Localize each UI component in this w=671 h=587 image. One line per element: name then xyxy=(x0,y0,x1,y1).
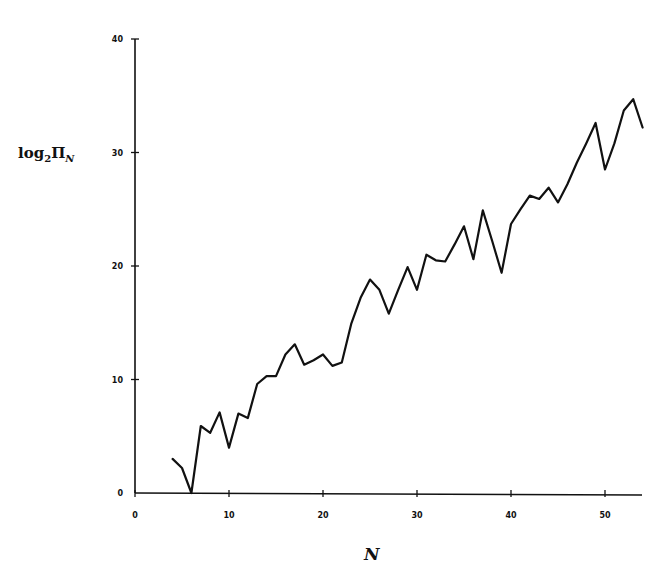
x-tick-label: 50 xyxy=(599,511,611,520)
y-tick-label: 30 xyxy=(112,149,124,158)
x-axis-line xyxy=(135,493,642,495)
x-tick-label: 0 xyxy=(132,511,138,520)
x-axis-label: N xyxy=(364,544,380,564)
y-axis-label-base: log xyxy=(18,144,44,162)
y-axis-label-symbol: Π xyxy=(51,144,65,162)
line-chart: 01020304050 010203040 xyxy=(0,0,671,587)
x-tick-label: 10 xyxy=(223,511,235,520)
y-tick-label: 40 xyxy=(112,35,124,44)
x-tick-label: 20 xyxy=(317,511,329,520)
x-tick-label: 30 xyxy=(411,511,423,520)
y-axis-label-sub2: N xyxy=(65,153,74,164)
axes xyxy=(135,39,642,495)
x-tick-label: 40 xyxy=(505,511,517,520)
y-axis-label: log2ΠN xyxy=(18,144,74,164)
y-tick-label: 0 xyxy=(117,489,123,498)
data-line xyxy=(173,99,643,493)
y-tick-label: 10 xyxy=(112,376,124,385)
y-tick-label: 20 xyxy=(112,262,124,271)
